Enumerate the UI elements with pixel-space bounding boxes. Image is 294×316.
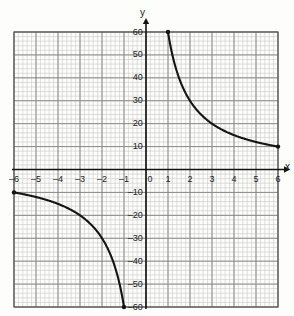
y-tick-label: –10 bbox=[128, 188, 143, 197]
figure-background bbox=[0, 0, 294, 316]
coordinate-plane-svg bbox=[0, 0, 294, 316]
x-tick-label: –3 bbox=[75, 175, 85, 184]
y-tick-label: –20 bbox=[128, 211, 143, 220]
y-tick-label: 20 bbox=[133, 119, 143, 128]
x-tick-label: 0 bbox=[148, 175, 153, 184]
x-tick-label: 5 bbox=[254, 175, 259, 184]
x-tick-label: –1 bbox=[119, 175, 129, 184]
x-tick-label: 2 bbox=[188, 175, 193, 184]
y-tick-label: –60 bbox=[128, 303, 143, 312]
y-tick-label: 50 bbox=[133, 50, 143, 59]
y-tick-label: 40 bbox=[133, 73, 143, 82]
x-tick-label: –4 bbox=[53, 175, 63, 184]
x-tick-label: 6 bbox=[276, 175, 281, 184]
y-tick-label: –30 bbox=[128, 234, 143, 243]
x-tick-label: 4 bbox=[232, 175, 237, 184]
x-tick-label: –6 bbox=[9, 175, 19, 184]
y-tick-label: 10 bbox=[133, 142, 143, 151]
x-tick-label: 1 bbox=[166, 175, 171, 184]
x-tick-label: –2 bbox=[97, 175, 107, 184]
x-tick-label: –5 bbox=[31, 175, 41, 184]
y-tick-label: –50 bbox=[128, 280, 143, 289]
x-tick-label: 3 bbox=[210, 175, 215, 184]
x-axis-label: x bbox=[285, 162, 290, 172]
y-axis-label: y bbox=[140, 8, 145, 18]
y-tick-label: –40 bbox=[128, 257, 143, 266]
y-tick-label: 30 bbox=[133, 96, 143, 105]
graph-figure: –6–5–4–3–2–10123456605040302010–10–20–30… bbox=[0, 0, 294, 316]
y-tick-label: 60 bbox=[133, 28, 143, 37]
